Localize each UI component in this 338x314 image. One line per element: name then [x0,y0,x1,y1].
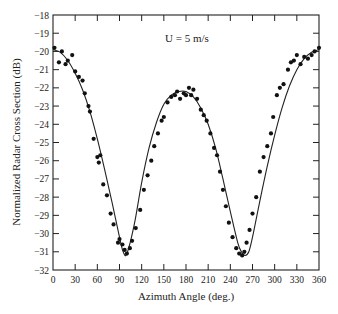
data-point [120,242,124,246]
data-point [278,86,282,90]
x-tick-label: 360 [312,275,327,285]
plot-frame [53,15,319,270]
data-point [189,93,193,97]
data-point [258,170,262,174]
data-point [145,173,149,177]
data-point [292,58,296,62]
y-tick-label: −28 [34,193,49,203]
data-point [261,155,265,159]
axes: 0306090120150180210240270300330360−18−19… [34,11,326,286]
y-tick-label: −29 [34,211,49,221]
data-point [310,53,314,57]
y-tick-label: −22 [34,83,49,93]
x-tick-label: 210 [201,275,216,285]
y-tick-label: −19 [34,29,49,39]
data-point [191,88,195,92]
data-point [52,46,56,50]
data-point [66,58,70,62]
data-point [138,208,142,212]
data-point [134,226,138,230]
x-tick-label: 330 [290,275,305,285]
data-point [224,204,228,208]
data-point [230,235,234,239]
chart: 0306090120150180210240270300330360−18−19… [0,0,338,314]
measured-points [52,46,321,258]
x-tick-label: 270 [245,275,260,285]
data-point [57,60,61,64]
y-tick-label: −25 [34,138,49,148]
data-point [123,248,127,252]
data-point [205,119,209,123]
data-point [221,188,225,192]
x-tick-label: 60 [93,275,103,285]
data-point [240,253,244,257]
data-point [83,91,87,95]
y-tick-label: −30 [34,229,49,239]
data-point [250,211,254,215]
data-point [208,131,212,135]
y-tick-label: −31 [34,247,49,257]
data-point [117,237,121,241]
data-point [317,46,321,50]
data-point [169,95,173,99]
data-point [152,144,156,148]
data-point [227,221,231,225]
y-tick-label: −18 [34,11,49,21]
data-point [73,69,77,73]
data-point [247,228,251,232]
y-tick-label: −21 [34,65,49,75]
data-point [63,62,67,66]
data-point [195,97,199,101]
y-tick-label: −32 [34,266,49,276]
y-axis-label: Normalized Radar Cross Section (dB) [10,58,23,226]
data-point [306,57,310,61]
data-point [298,62,302,66]
data-point [97,160,101,164]
data-point [156,131,160,135]
data-point [286,68,290,72]
data-point [275,93,279,97]
data-point [142,188,146,192]
y-tick-label: −24 [34,120,49,130]
data-point [265,144,269,148]
data-point [125,252,129,256]
data-point [187,86,191,90]
data-point [60,49,64,53]
wind-speed-annotation: U = 5 m/s [165,32,209,44]
data-point [295,53,299,57]
data-point [116,241,120,245]
data-point [109,211,113,215]
data-point [77,75,81,79]
data-point [165,100,169,104]
x-tick-label: 150 [157,275,172,285]
data-point [199,108,203,112]
data-point [184,93,188,97]
data-point [175,89,179,93]
x-tick-label: 240 [223,275,238,285]
data-point [162,115,166,119]
data-point [160,119,164,123]
data-point [88,109,92,113]
data-point [271,115,275,119]
data-point [70,53,74,57]
x-axis-label: Azimuth Angle (deg.) [138,290,235,303]
data-point [215,153,219,157]
model-line [53,50,319,256]
data-point [98,153,102,157]
data-point [244,241,248,245]
data-point [92,137,96,141]
y-tick-label: −26 [34,156,49,166]
x-tick-label: 0 [51,275,56,285]
data-point [281,82,285,86]
data-point [130,239,134,243]
data-point [128,246,132,250]
data-point [234,246,238,250]
model-curve [53,50,319,256]
data-point [218,170,222,174]
y-tick-label: −27 [34,174,49,184]
x-tick-label: 90 [115,275,125,285]
data-point [105,193,109,197]
data-point [242,250,246,254]
data-point [312,49,316,53]
data-point [86,104,90,108]
